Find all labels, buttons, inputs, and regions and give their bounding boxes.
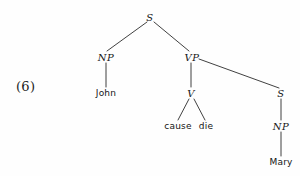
tree-node-vp: VP (185, 52, 200, 63)
tree-branch-S-root-to-NP-subj (107, 22, 147, 51)
tree-branch-V-to-cause (178, 99, 189, 120)
tree-node-s-root: S (146, 12, 153, 23)
tree-node-v: V (187, 88, 195, 99)
syntax-tree-edges (0, 0, 300, 176)
tree-node-s-emb: S (277, 88, 284, 99)
tree-node-np-subj: NP (98, 52, 114, 63)
tree-branch-V-to-die (194, 99, 205, 120)
tree-branch-VP-to-S-emb (199, 59, 279, 88)
tree-terminal-john: John (96, 88, 116, 98)
example-number: (6) (16, 79, 35, 94)
tree-terminal-die: die (199, 121, 213, 131)
tree-branch-S-root-to-VP (154, 22, 189, 51)
tree-terminal-mary: Mary (269, 157, 292, 167)
tree-node-np-obj: NP (273, 121, 289, 132)
figure-canvas: (6) SNPJohnVPVcausedieSNPMary (0, 0, 300, 176)
tree-terminal-cause: cause (164, 121, 191, 131)
